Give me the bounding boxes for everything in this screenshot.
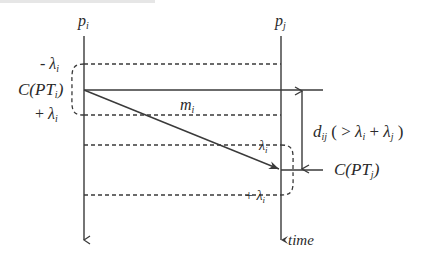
checkpoint-ptj-label: C(PTj) [334,160,380,180]
checkpoint-pti-label: C(PTi) [18,80,64,100]
message-mi-label: mi [180,96,195,115]
process-pi-label: pi [77,12,89,31]
minus-lambda-i-label: - λi [40,55,59,74]
distance-dij-label: dij ( > λi + λj ) [313,122,403,142]
lambda-i-lower-label-pj: + λi [245,188,265,205]
plus-lambda-i-label: + λi [35,105,58,124]
checkpoint-timing-diagram: pi pj - λi C(PTi) + λi mi λi + λi dij ( … [0,0,428,257]
cropped-header-remnant [0,0,155,3]
lambda-interval-bracket-pi [72,64,84,115]
time-axis-label: time [288,232,314,248]
process-pj-label: pj [274,12,286,31]
lambda-i-upper-label-pj: λi [258,138,268,155]
